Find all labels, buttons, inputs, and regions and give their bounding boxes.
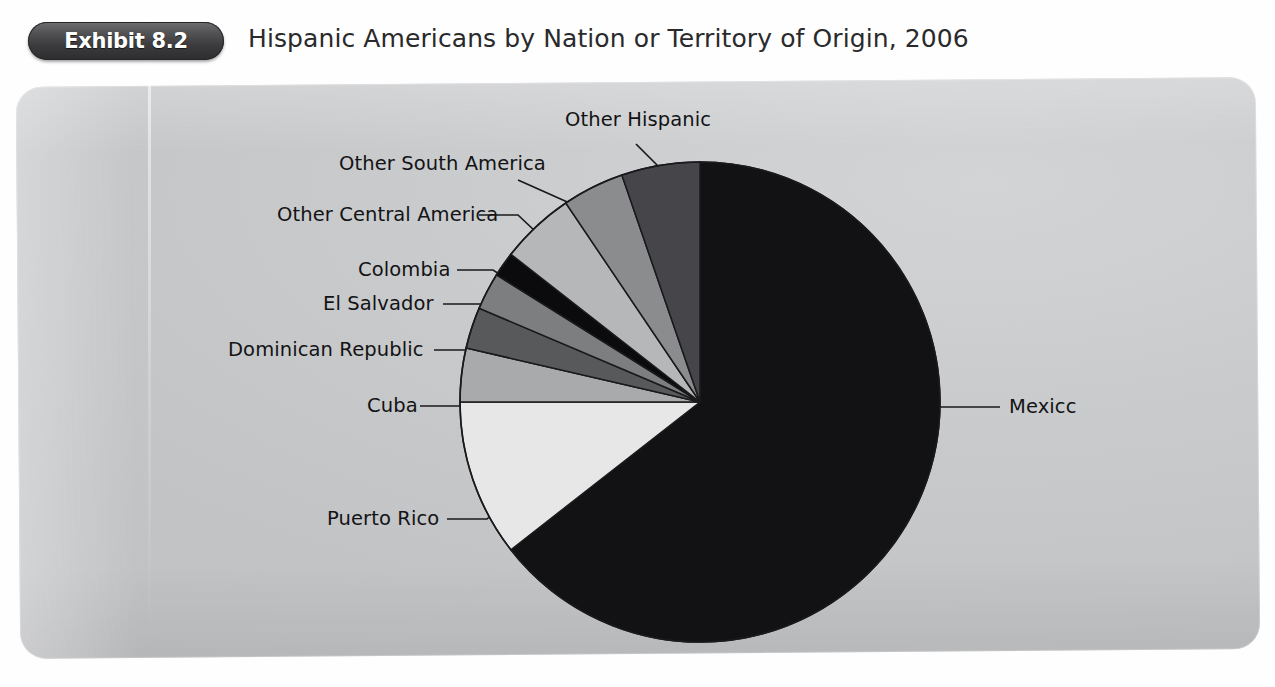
slice-label-other-hispanic: Other Hispanic (565, 108, 711, 131)
pie-slices (460, 162, 940, 642)
slice-label-other-central-america: Other Central America (277, 203, 498, 226)
slice-label-dominican-republic: Dominican Republic (228, 338, 424, 361)
slice-label-mexico: Mexicc (1009, 395, 1076, 418)
slice-label-colombia: Colombia (358, 258, 450, 281)
pie-chart: Other Hispanic Other South America Other… (0, 0, 1275, 687)
slice-label-puerto-rico: Puerto Rico (327, 507, 439, 530)
slice-label-el-salvador: El Salvador (323, 292, 434, 315)
pie-chart-svg (0, 0, 1275, 687)
exhibit-page: Exhibit 8.2 Hispanic Americans by Nation… (0, 0, 1275, 687)
slice-label-other-south-america: Other South America (339, 152, 546, 175)
slice-label-cuba: Cuba (367, 394, 418, 417)
